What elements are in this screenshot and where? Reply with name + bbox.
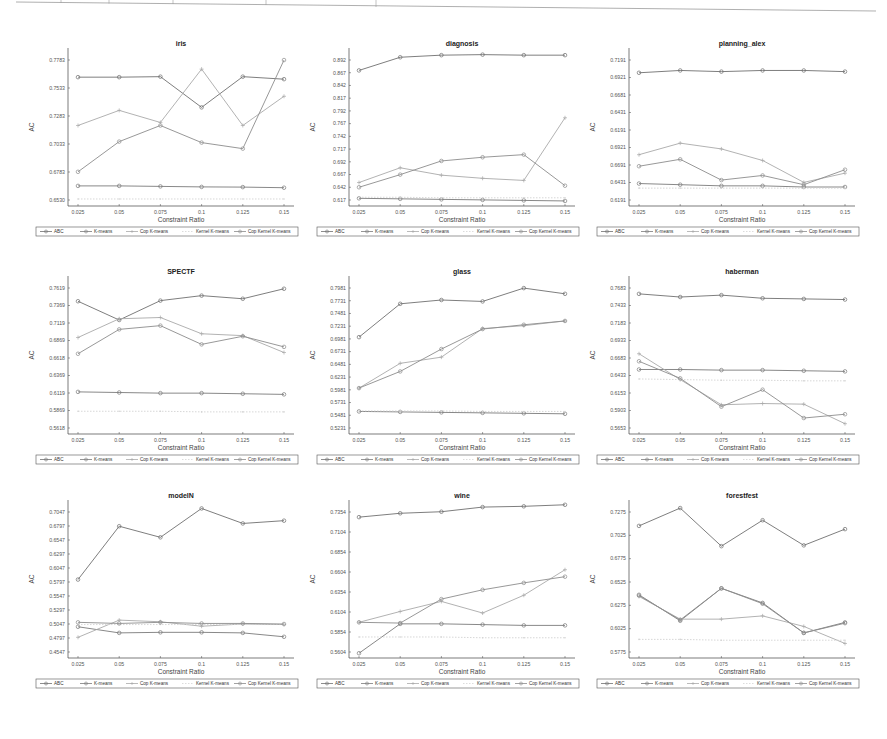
legend-entry: ABC: [615, 681, 625, 686]
y-tick-label: 0.5297: [49, 607, 65, 613]
data-point-marker: [638, 378, 640, 380]
data-point-marker: [358, 410, 360, 412]
y-tick-label: 0.7033: [49, 141, 65, 147]
y-tick-label: 0.5731: [330, 399, 346, 405]
data-point-marker: [719, 617, 723, 621]
y-tick-label: 0.6354: [330, 589, 346, 595]
x-tick-label: 0.1: [198, 437, 205, 443]
y-tick-label: 0.7369: [49, 302, 65, 308]
y-tick-label: 0.6481: [330, 361, 346, 367]
y-tick-label: 0.667: [333, 171, 346, 177]
data-point-marker: [482, 197, 484, 199]
legend-entry: Cop K-means: [140, 681, 169, 686]
series-line: [78, 392, 284, 395]
x-tick-label: 0.025: [353, 437, 366, 443]
data-point-marker: [441, 636, 443, 638]
series-line: [639, 294, 845, 300]
x-tick-label: 0.1: [759, 437, 766, 443]
legend-entry: K-means: [655, 229, 674, 234]
data-point-marker: [762, 639, 764, 641]
chart-modeln: modelN0.45470.47970.50470.52970.55470.57…: [22, 488, 312, 713]
y-tick-label: 0.6681: [610, 92, 626, 98]
data-point-marker: [357, 335, 361, 339]
y-tick-label: 0.842: [333, 82, 346, 88]
data-point-marker: [679, 639, 681, 641]
chart-title: forestfest: [726, 492, 759, 499]
x-tick-label: 0.15: [279, 437, 289, 443]
series-line: [78, 411, 284, 412]
y-tick-label: 0.6783: [49, 169, 65, 175]
data-point-marker: [242, 198, 244, 200]
data-point-marker: [844, 380, 846, 382]
y-tick-label: 0.7481: [330, 310, 346, 316]
y-tick-label: 0.5653: [610, 425, 626, 431]
x-tick-label: 0.1: [198, 661, 205, 667]
y-tick-label: 0.5481: [330, 412, 346, 418]
legend-entry: Kernel K-means: [757, 457, 791, 462]
chart-spectf: SPECTF0.56180.58690.61190.63690.66180.68…: [22, 264, 312, 489]
y-axis-label: AC: [589, 350, 596, 359]
series-line: [359, 637, 565, 638]
y-tick-label: 0.692: [333, 159, 346, 165]
chart-legend: ABCK-meansCop K-meansKernel K-meansCop K…: [597, 227, 859, 236]
data-point-marker: [721, 187, 723, 189]
series-line: [359, 118, 565, 183]
data-point-marker: [564, 637, 566, 639]
x-tick-label: 0.025: [633, 661, 646, 667]
chart-haberman: haberman0.56530.59030.61530.64330.66830.…: [583, 264, 873, 489]
y-tick-label: 0.6775: [610, 555, 626, 561]
y-tick-label: 0.4797: [49, 635, 65, 641]
x-tick-label: 0.075: [154, 437, 167, 443]
y-tick-label: 0.7275: [610, 509, 626, 515]
data-point-marker: [76, 635, 80, 639]
series-line: [359, 570, 565, 623]
y-tick-label: 0.767: [333, 120, 346, 126]
data-point-marker: [761, 402, 765, 406]
data-point-marker: [439, 173, 443, 177]
chart-wine: wine0.56040.58540.61040.63540.66040.6854…: [303, 488, 593, 713]
top-table-rule: [16, 0, 876, 12]
chart-legend: ABCK-meansCop K-meansKernel K-meansCop K…: [36, 455, 298, 464]
x-tick-label: 0.1: [759, 209, 766, 215]
legend-entry: Cop K-means: [701, 681, 730, 686]
series-line: [639, 143, 845, 182]
legend-entry: Kernel K-means: [757, 681, 791, 686]
legend-entry: Kernel K-means: [477, 229, 511, 234]
data-point-marker: [762, 187, 764, 189]
data-point-marker: [719, 147, 723, 151]
data-point-marker: [523, 197, 525, 199]
chart-glass: glass0.52310.54810.57310.59810.62310.648…: [303, 264, 593, 489]
legend-entry: ABC: [335, 457, 345, 462]
y-tick-label: 0.5047: [49, 621, 65, 627]
legend-entry: Kernel K-means: [477, 457, 511, 462]
data-point-marker: [398, 166, 402, 170]
y-tick-label: 0.5604: [330, 649, 346, 655]
x-tick-label: 0.125: [236, 437, 249, 443]
legend-entry: Cop Kernel K-means: [529, 681, 572, 686]
y-tick-label: 0.5547: [49, 593, 65, 599]
line-chart: forestfest0.57750.60250.62750.65250.6775…: [583, 488, 873, 713]
data-point-marker: [399, 410, 401, 412]
y-tick-label: 0.5775: [610, 649, 626, 655]
legend-entry: K-means: [375, 681, 394, 686]
x-axis-label: Constraint Ratio: [719, 444, 766, 451]
data-point-marker: [844, 187, 846, 189]
series-line: [639, 379, 845, 381]
series-line: [78, 627, 284, 637]
x-tick-label: 0.1: [198, 209, 205, 215]
y-tick-label: 0.7981: [330, 285, 346, 291]
legend-entry: Cop K-means: [140, 457, 169, 462]
x-tick-label: 0.075: [435, 437, 448, 443]
series-line: [359, 321, 565, 388]
data-point-marker: [482, 637, 484, 639]
x-tick-label: 0.125: [517, 437, 530, 443]
y-axis-label: AC: [28, 574, 35, 583]
y-tick-label: 0.6431: [610, 109, 626, 115]
y-tick-label: 0.6797: [49, 523, 65, 529]
legend-entry: Cop K-means: [701, 229, 730, 234]
chart-title: glass: [453, 268, 471, 276]
y-tick-label: 0.7433: [610, 302, 626, 308]
x-tick-label: 0.125: [236, 209, 249, 215]
legend-entry: Cop Kernel K-means: [809, 457, 852, 462]
y-tick-label: 0.7025: [610, 532, 626, 538]
